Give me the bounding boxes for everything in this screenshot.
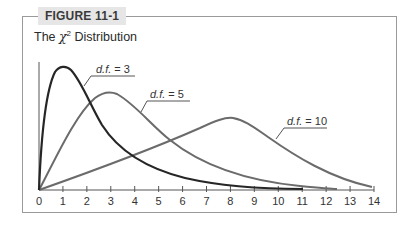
label-df3: d.f. = 3 <box>96 63 130 75</box>
chart-plot: 01234567891011121314 d.f. = 3 d.f. = 5 d… <box>0 0 420 228</box>
x-tick-label: 0 <box>36 195 42 207</box>
x-tick-label: 11 <box>297 195 308 207</box>
x-tick-label: 6 <box>180 195 186 207</box>
x-tick-label: 13 <box>344 195 356 207</box>
x-tick-label: 2 <box>84 195 90 207</box>
x-tick-labels: 01234567891011121314 <box>36 195 380 207</box>
x-tick-label: 5 <box>156 195 162 207</box>
x-tick-label: 12 <box>320 195 332 207</box>
x-tick-label: 4 <box>132 195 138 207</box>
x-tick-label: 3 <box>108 195 114 207</box>
curve-df10 <box>39 118 372 190</box>
label-df5: d.f. = 5 <box>150 88 184 100</box>
curve-df3 <box>39 67 303 190</box>
x-tick-label: 10 <box>272 195 284 207</box>
x-tick-label: 8 <box>227 195 233 207</box>
leader-df5 <box>141 101 190 112</box>
x-tick-label: 9 <box>251 195 257 207</box>
leader-df10 <box>276 128 327 139</box>
label-df10: d.f. = 10 <box>287 115 327 127</box>
curve-df5 <box>39 92 337 190</box>
x-tick-label: 1 <box>60 195 66 207</box>
x-tick-label: 14 <box>368 195 380 207</box>
leader-df3 <box>84 76 135 86</box>
x-tick-label: 7 <box>203 195 209 207</box>
